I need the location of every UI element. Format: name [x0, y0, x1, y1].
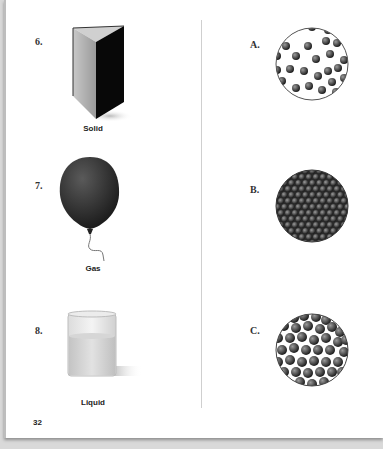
solid-wedge-block-icon — [66, 24, 136, 124]
item-number-6: 6. — [35, 36, 43, 47]
particles-spread-apart-icon — [274, 26, 350, 102]
column-divider — [201, 20, 202, 408]
caption-solid: Solid — [63, 124, 123, 133]
worksheet-page: 6. Solid 7. Gas 8. Liq — [4, 0, 383, 438]
option-letter-b: B. — [250, 184, 259, 195]
page-number: 32 — [33, 418, 42, 427]
balloon-icon — [56, 155, 126, 265]
caption-gas: Gas — [63, 264, 123, 273]
particles-close-random-icon — [274, 312, 350, 388]
beaker-liquid-icon — [64, 310, 149, 385]
option-letter-a: A. — [250, 39, 260, 50]
particles-tightly-packed-icon — [274, 168, 350, 244]
option-letter-c: C. — [250, 325, 260, 336]
caption-liquid: Liquid — [63, 398, 123, 407]
item-number-8: 8. — [35, 325, 43, 336]
item-number-7: 7. — [35, 180, 43, 191]
